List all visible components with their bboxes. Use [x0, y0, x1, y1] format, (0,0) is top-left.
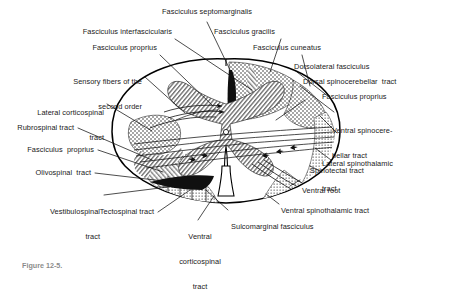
label-fasciculus-septomarginalis: Fasciculus septomarginalis: [128, 8, 286, 16]
label-line-1: Sensory fibers of the: [0, 78, 142, 86]
label-fasciculus-proprius-lower: Fasciculus proprius: [0, 146, 94, 154]
label-rubrospinal-tract: Rubrospinal tract: [0, 124, 74, 132]
label-fasciculus-proprius-upper: Fasciculus proprius: [0, 44, 157, 52]
label-line-1: Ventral spinocere-: [332, 127, 392, 135]
label-fasciculus-gracilis: Fasciculus gracilis: [214, 28, 275, 36]
label-line-1: Ventral: [161, 233, 239, 241]
label-line-2: corticospinal: [161, 258, 239, 266]
label-fasciculus-proprius-right: Fasciculus proprius: [322, 93, 387, 101]
label-line-2: tract: [0, 134, 104, 142]
label-vestibulospinal-tract: Vestibulospinal tract: [0, 191, 100, 258]
label-fasciculus-cuneatus: Fasciculus cuneatus: [253, 44, 321, 52]
label-ventral-root: Ventral root: [302, 187, 340, 195]
label-fasciculus-interfascicularis: Fasciculus interfascicularis: [0, 28, 172, 36]
label-tectospinal-tract: Tectospinal tract: [0, 208, 154, 216]
label-dorsal-spinocerebellar-tract: Dorsal spinocerebellar tract: [303, 78, 396, 86]
label-line-3: tract: [161, 283, 239, 291]
label-line-2: tract: [0, 233, 100, 241]
label-dorsolateral-fasciculus: Dorsolateral fasciculus: [294, 63, 370, 71]
label-spinotectal-tract: Spinotectal tract: [310, 167, 364, 175]
label-ventral-spinothalamic-tract: Ventral spinothalamic tract: [281, 207, 369, 215]
label-lateral-spinothalamic-tract: Lateral spinothalamic tract: [322, 143, 393, 210]
label-ventral-corticospinal-tract: Ventral corticospinal tract: [161, 216, 239, 293]
label-sulcomarginal-fasciculus: Sulcomarginal fasciculus: [231, 223, 314, 231]
figure-caption: Figure 12-5.: [22, 261, 62, 270]
leader-vestibulospinal: [104, 187, 168, 195]
label-line-1: Lateral corticospinal: [0, 109, 104, 117]
central-canal: [223, 129, 228, 134]
label-olivospinal-tract: Olivospinal tract: [0, 169, 91, 177]
